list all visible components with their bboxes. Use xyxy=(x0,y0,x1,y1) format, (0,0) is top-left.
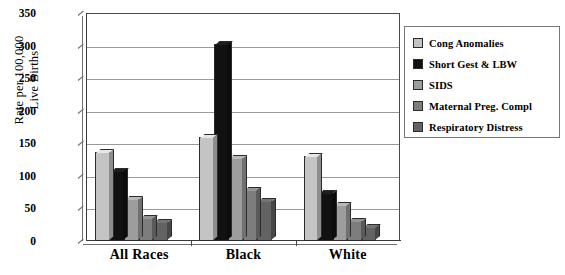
y-tick-label: 150 xyxy=(0,138,36,149)
bar xyxy=(199,137,214,241)
y-tick-label: 100 xyxy=(0,171,36,182)
bar-side-face xyxy=(271,198,276,240)
legend-swatch xyxy=(413,38,423,48)
chart-legend: Cong AnomaliesShort Gest & LBWSIDSMatern… xyxy=(404,26,560,138)
x-tick-mark xyxy=(191,241,192,246)
bar-side-face xyxy=(317,153,322,240)
legend-swatch xyxy=(413,122,423,132)
bar-side-face xyxy=(375,224,380,240)
y-tick-label: 350 xyxy=(0,8,36,19)
legend-item: Short Gest & LBW xyxy=(413,54,559,74)
y-axis-line-secondary xyxy=(82,16,83,241)
bar-side-face xyxy=(332,190,337,240)
y-axis-ticks: 050100150200250300350 xyxy=(0,0,87,275)
x-axis-label: All Races xyxy=(87,247,191,263)
legend-label: Cong Anomalies xyxy=(429,38,504,49)
bar-side-face xyxy=(123,168,128,240)
bar-side-face xyxy=(167,219,172,240)
bar-side-face xyxy=(152,215,157,240)
legend-item: Maternal Preg. Compl xyxy=(413,96,559,116)
bar xyxy=(95,152,110,241)
y-tick-label: 250 xyxy=(0,73,36,84)
x-axis-line-secondary xyxy=(83,244,397,245)
legend-label: Maternal Preg. Compl xyxy=(429,101,532,112)
bar-side-face xyxy=(346,202,351,240)
bar-side-face xyxy=(227,41,232,240)
bar-chart: Rate per 100,000 Live Births 05010015020… xyxy=(0,0,565,275)
legend-label: Respiratory Distress xyxy=(429,122,523,133)
y-tick-label: 300 xyxy=(0,41,36,52)
bar xyxy=(304,156,319,241)
legend-label: SIDS xyxy=(429,80,453,91)
x-axis-label: Black xyxy=(191,247,295,263)
bar-side-face xyxy=(109,149,114,240)
x-axis-label: White xyxy=(296,247,400,263)
bar-side-face xyxy=(242,155,247,240)
legend-swatch xyxy=(413,80,423,90)
bar-series-container xyxy=(87,13,400,241)
legend-item: Cong Anomalies xyxy=(413,33,559,53)
legend-item: SIDS xyxy=(413,75,559,95)
bar-side-face xyxy=(213,134,218,240)
y-tick-label: 200 xyxy=(0,106,36,117)
y-tick-label: 0 xyxy=(0,236,36,247)
legend-swatch xyxy=(413,101,423,111)
bar-side-face xyxy=(256,187,261,240)
x-tick-mark xyxy=(296,241,297,246)
y-tick-label: 50 xyxy=(0,203,36,214)
legend-swatch xyxy=(413,59,423,69)
legend-label: Short Gest & LBW xyxy=(429,59,517,70)
legend-item: Respiratory Distress xyxy=(413,117,559,137)
bar-side-face xyxy=(138,196,143,240)
